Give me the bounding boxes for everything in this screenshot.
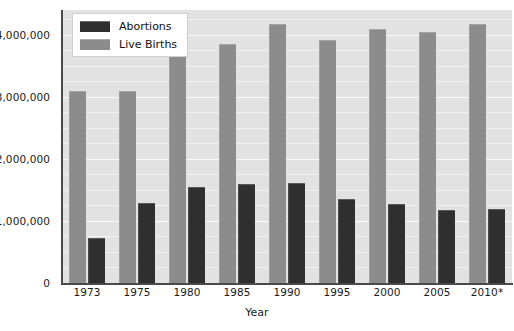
bar-abortions	[138, 203, 155, 283]
bar-abortions	[288, 183, 305, 283]
x-tick-label: 1985	[223, 286, 250, 298]
y-tick-label: 1,000,000	[0, 216, 56, 227]
chart-legend: Abortions Live Births	[72, 13, 188, 57]
bar-abortions	[188, 187, 205, 283]
bar-group	[312, 10, 362, 283]
bar-abortions	[438, 210, 455, 283]
bar-group	[412, 10, 462, 283]
x-axis-labels: 197319751980198519901995200020052010*	[62, 286, 512, 306]
bar-abortions	[488, 209, 505, 283]
bar-live-births	[119, 91, 136, 283]
x-tick-label: 1990	[273, 286, 300, 298]
bar-live-births	[319, 40, 336, 283]
bar-chart: 01,000,0002,000,0003,000,0004,000,000 19…	[0, 0, 514, 331]
y-tick-label: 0	[0, 278, 56, 289]
bar-live-births	[69, 91, 86, 283]
x-tick-label: 1975	[123, 286, 150, 298]
legend-swatch-abortions-icon	[80, 21, 110, 32]
bar-live-births	[219, 44, 236, 283]
legend-item-live-births: Live Births	[80, 37, 177, 51]
bar-abortions	[338, 199, 355, 283]
legend-label-abortions: Abortions	[119, 21, 172, 32]
bar-group	[212, 10, 262, 283]
bar-abortions	[388, 204, 405, 283]
bar-abortions	[88, 238, 105, 283]
y-tick-label: 4,000,000	[0, 30, 56, 41]
bar-live-births	[469, 24, 486, 283]
x-tick-label: 1980	[173, 286, 200, 298]
bar-live-births	[169, 48, 186, 283]
bar-group	[362, 10, 412, 283]
x-tick-label: 1973	[73, 286, 100, 298]
bar-live-births	[369, 29, 386, 283]
x-tick-label: 2005	[423, 286, 450, 298]
bar-live-births	[269, 24, 286, 283]
legend-item-abortions: Abortions	[80, 19, 177, 33]
x-axis-line	[61, 283, 513, 285]
bar-live-births	[419, 32, 436, 283]
bar-group	[262, 10, 312, 283]
x-tick-label: 2010*	[471, 286, 503, 298]
y-axis-line	[61, 10, 63, 284]
x-tick-label: 2000	[373, 286, 400, 298]
bar-abortions	[238, 184, 255, 283]
y-axis-labels: 01,000,0002,000,0003,000,0004,000,000	[0, 0, 56, 331]
bar-group	[462, 10, 512, 283]
y-tick-label: 3,000,000	[0, 92, 56, 103]
y-tick-label: 2,000,000	[0, 154, 56, 165]
legend-swatch-live-births-icon	[80, 39, 110, 50]
x-axis-title: Year	[0, 306, 514, 319]
legend-label-live-births: Live Births	[119, 39, 177, 50]
x-tick-label: 1995	[323, 286, 350, 298]
